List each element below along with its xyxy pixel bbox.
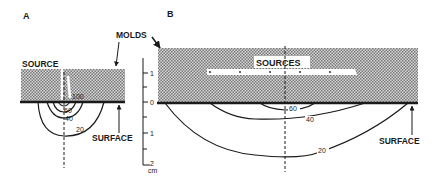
scale-bar: 1 0 1 2 cm [143,58,158,174]
contour-label-40-b: 40 [306,116,314,123]
source-label-a: SOURCE [22,59,59,69]
source-strip-b [207,69,357,75]
scale-tick-label: 1 [150,70,154,77]
contour-label-60-b: 60 [289,105,297,112]
scale-tick-label: 1 [150,130,154,137]
molds-callout: MOLDS [116,30,160,66]
contour-label-100-a: 100 [72,93,84,100]
scale-unit: cm [148,167,158,174]
contour-label-20-b: 20 [318,147,326,154]
contour-label-20-a: 20 [76,126,84,133]
scale-tick-label: 2 [150,160,154,167]
figure: A 100 60 40 20 SOURCE SURFACE MOLDS [0,0,438,184]
sources-label-b: SOURCES [256,58,301,68]
panel-b: B SOURCES 60 40 20 SURFACE [157,9,420,172]
molds-label: MOLDS [116,30,147,40]
scale-tick-label: 0 [150,99,154,106]
molds-arrow-a [116,42,119,66]
panel-b-label: B [167,9,174,19]
contour-40-b [210,103,365,119]
contour-20-b [165,103,408,157]
contour-label-60-a: 60 [64,107,72,114]
surface-label-b: SURFACE [379,136,420,146]
molds-arrow-b [152,37,160,48]
contour-label-40-a: 40 [65,115,73,122]
panel-a-label: A [23,11,30,21]
surface-label-a: SURFACE [92,133,133,143]
